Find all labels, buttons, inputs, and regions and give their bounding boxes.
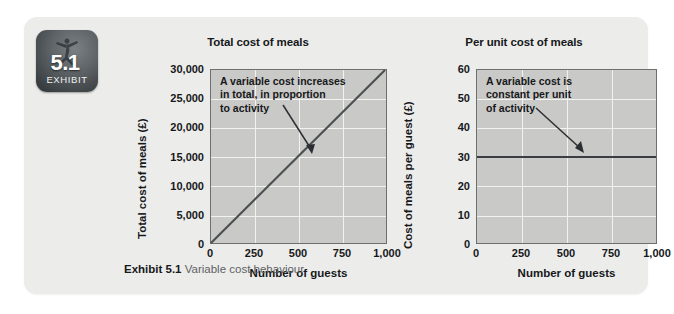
x-axis-label: Number of guests xyxy=(476,267,657,279)
y-tick-label: 50 xyxy=(436,93,470,104)
exhibit-caption-text: Variable cost behaviour xyxy=(185,263,304,275)
y-tick-label: 0 xyxy=(144,239,204,250)
x-tick-label: 250 xyxy=(512,248,530,259)
annotation-arrow-icon xyxy=(210,69,387,244)
exhibit-caption-label: Exhibit 5.1 xyxy=(124,263,182,275)
exhibit-badge-word: EXHIBIT xyxy=(36,75,98,85)
exhibit-badge: 5.1 EXHIBIT xyxy=(36,30,98,92)
chart-title: Total cost of meals xyxy=(124,36,392,48)
exhibit-caption: Exhibit 5.1 Variable cost behaviour xyxy=(124,263,304,275)
y-tick-label: 30,000 xyxy=(144,64,204,75)
y-tick-label: 25,000 xyxy=(144,93,204,104)
y-tick-label: 60 xyxy=(436,64,470,75)
exhibit-page: 5.1 EXHIBIT Total cost of meals Total co… xyxy=(0,0,674,314)
y-tick-label: 0 xyxy=(436,239,470,250)
chart-per-unit-cost-of-meals: Per unit cost of meals Cost of meals per… xyxy=(390,17,658,257)
y-tick-label: 5,000 xyxy=(144,210,204,221)
exhibit-badge-number: 5.1 xyxy=(36,52,94,74)
x-tick-label: 1,000 xyxy=(643,248,671,259)
x-tick-label: 500 xyxy=(557,248,575,259)
x-tick-label: 750 xyxy=(602,248,620,259)
annotation-arrow-icon xyxy=(476,69,657,244)
y-tick-label: 20 xyxy=(436,181,470,192)
chart-total-cost-of-meals: Total cost of meals Total cost of meals … xyxy=(124,17,392,257)
y-tick-label: 40 xyxy=(436,122,470,133)
y-tick-label: 10,000 xyxy=(144,181,204,192)
x-tick-label: 0 xyxy=(473,248,479,259)
exhibit-card: 5.1 EXHIBIT Total cost of meals Total co… xyxy=(24,17,648,294)
x-tick-label: 250 xyxy=(245,248,263,259)
y-tick-label: 10 xyxy=(436,210,470,221)
y-tick-label: 20,000 xyxy=(144,122,204,133)
y-tick-label: 30 xyxy=(436,152,470,163)
y-tick-label: 15,000 xyxy=(144,152,204,163)
x-tick-label: 0 xyxy=(207,248,213,259)
x-tick-label: 500 xyxy=(289,248,307,259)
chart-title: Per unit cost of meals xyxy=(390,36,658,48)
y-axis-label: Total cost of meals (£) xyxy=(136,118,148,239)
x-tick-label: 750 xyxy=(333,248,351,259)
y-axis-label: Cost of meals per guest (£) xyxy=(402,101,414,249)
